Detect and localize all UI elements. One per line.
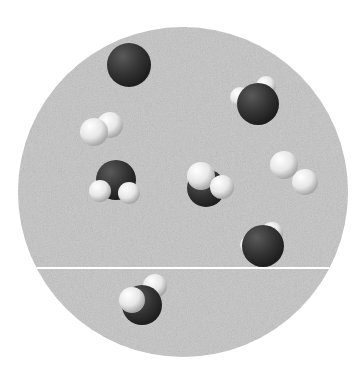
- molecule-water: [107, 43, 151, 87]
- hydrogen-atom: [292, 169, 318, 195]
- oxygen-atom: [107, 43, 151, 87]
- hydrogen-atom: [270, 151, 298, 179]
- hydrogen-atom: [118, 182, 140, 204]
- hydrogen-atom: [210, 175, 234, 199]
- hydrogen-atom: [119, 287, 145, 313]
- oxygen-atom: [242, 225, 284, 267]
- oxygen-atom: [237, 83, 279, 125]
- molecule-diagram: [0, 0, 362, 373]
- hydrogen-atom: [89, 180, 111, 202]
- hydrogen-atom: [80, 118, 108, 146]
